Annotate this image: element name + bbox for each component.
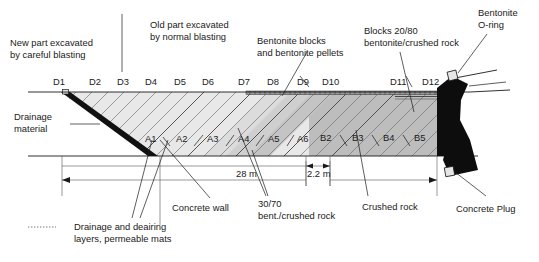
svg-text:D8: D8	[267, 76, 279, 87]
svg-text:D2: D2	[89, 76, 101, 87]
annotation-drainage-deairing: Drainage and deairing layers, permeable …	[74, 221, 172, 244]
svg-text:New part excavated: New part excavated	[10, 37, 93, 48]
annotation-bentonite-blocks: Bentonite blocks and bentonite pellets	[257, 35, 344, 58]
svg-text:Old part excavated: Old part excavated	[150, 19, 229, 30]
dimension-lines	[62, 156, 437, 225]
svg-text:A3: A3	[207, 133, 218, 144]
svg-text:B5: B5	[414, 132, 425, 143]
svg-text:D11: D11	[390, 76, 407, 87]
concrete-plug-shape	[437, 76, 478, 176]
svg-text:B2: B2	[320, 132, 331, 143]
svg-text:A2: A2	[176, 133, 187, 144]
bentonite-o-ring-bottom	[444, 166, 454, 176]
zone-b-fill	[309, 92, 437, 156]
svg-text:28 m: 28 m	[236, 168, 257, 179]
svg-text:B3: B3	[352, 132, 363, 143]
svg-text:A6: A6	[297, 133, 308, 144]
svg-text:material: material	[14, 123, 47, 134]
svg-text:layers, permeable mats: layers, permeable mats	[74, 233, 172, 244]
svg-text:D7: D7	[238, 76, 250, 87]
svg-text:D3: D3	[117, 76, 129, 87]
dim-arrow-28m	[62, 177, 306, 183]
dimension-labels: 28 m 2.2 m	[236, 168, 331, 179]
svg-text:30/70: 30/70	[258, 198, 281, 209]
annotation-blocks-2080: Blocks 20/80 bentonite/crushed rock	[364, 25, 459, 48]
svg-text:Concrete wall: Concrete wall	[172, 202, 229, 213]
svg-text:B4: B4	[383, 132, 394, 143]
svg-text:D10: D10	[322, 76, 339, 87]
annotation-crushed-rock: Crushed rock	[362, 201, 418, 212]
svg-text:by careful blasting: by careful blasting	[10, 49, 86, 60]
station-labels: D1 D2 D3 D4 D5 D6 D7 D8 D9 D10 D11 D12	[53, 76, 439, 87]
svg-text:2.2 m: 2.2 m	[307, 168, 331, 179]
svg-text:Drainage and deairing: Drainage and deairing	[74, 221, 166, 232]
svg-text:Blocks 20/80: Blocks 20/80	[364, 25, 418, 36]
dim-arrow-right	[330, 177, 437, 183]
svg-text:A4: A4	[238, 133, 249, 144]
annotation-old-part: Old part excavated by normal blasting	[150, 19, 229, 42]
annotation-concrete-plug: Concrete Plug	[456, 203, 515, 214]
tunnel-backfill-diagram: New part excavated by careful blasting O…	[0, 0, 539, 262]
svg-text:O-ring: O-ring	[478, 19, 504, 30]
svg-text:and bentonite pellets: and bentonite pellets	[257, 47, 344, 58]
svg-text:D12: D12	[422, 76, 439, 87]
svg-text:D5: D5	[174, 76, 186, 87]
figure-root: New part excavated by careful blasting O…	[0, 0, 539, 262]
bentonite-o-ring-top	[447, 70, 458, 81]
svg-text:bent./crushed rock: bent./crushed rock	[258, 210, 335, 221]
annotation-new-part: New part excavated by careful blasting	[10, 37, 93, 60]
svg-text:bentonite/crushed rock: bentonite/crushed rock	[364, 37, 459, 48]
annotation-bentonite-o-ring: Bentonite O-ring	[478, 7, 518, 30]
svg-text:Drainage: Drainage	[14, 111, 52, 122]
svg-text:D6: D6	[202, 76, 214, 87]
svg-text:D1: D1	[53, 76, 65, 87]
svg-text:Crushed rock: Crushed rock	[362, 201, 418, 212]
annotation-drainage-material: Drainage material	[14, 111, 52, 134]
svg-text:Bentonite blocks: Bentonite blocks	[257, 35, 326, 46]
svg-text:Bentonite: Bentonite	[478, 7, 518, 18]
svg-text:by normal blasting: by normal blasting	[150, 31, 226, 42]
svg-text:D4: D4	[145, 76, 157, 87]
annotation-concrete-wall: Concrete wall	[172, 202, 229, 213]
svg-text:Concrete Plug: Concrete Plug	[456, 203, 515, 214]
svg-text:A5: A5	[268, 133, 279, 144]
svg-text:D9: D9	[297, 76, 309, 87]
svg-text:A1: A1	[145, 133, 156, 144]
annotation-bent-crushed-rock: 30/70 bent./crushed rock	[258, 198, 335, 221]
